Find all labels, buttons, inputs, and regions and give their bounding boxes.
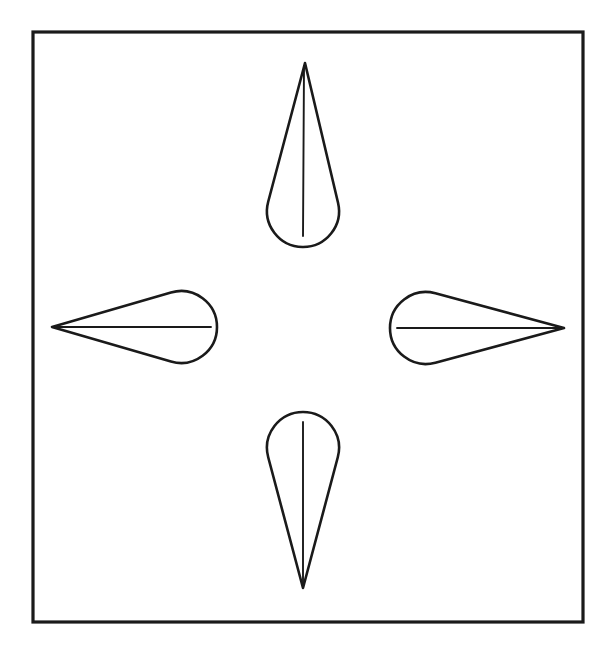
lobe-left-group [52, 291, 217, 363]
lobe-up-axis-line [303, 66, 304, 236]
figure-canvas [0, 0, 613, 651]
lobe-down-group [267, 412, 339, 588]
teardrop-cross-diagram [0, 0, 613, 651]
lobe-right-group [390, 292, 564, 364]
lobe-up-group [267, 63, 339, 247]
